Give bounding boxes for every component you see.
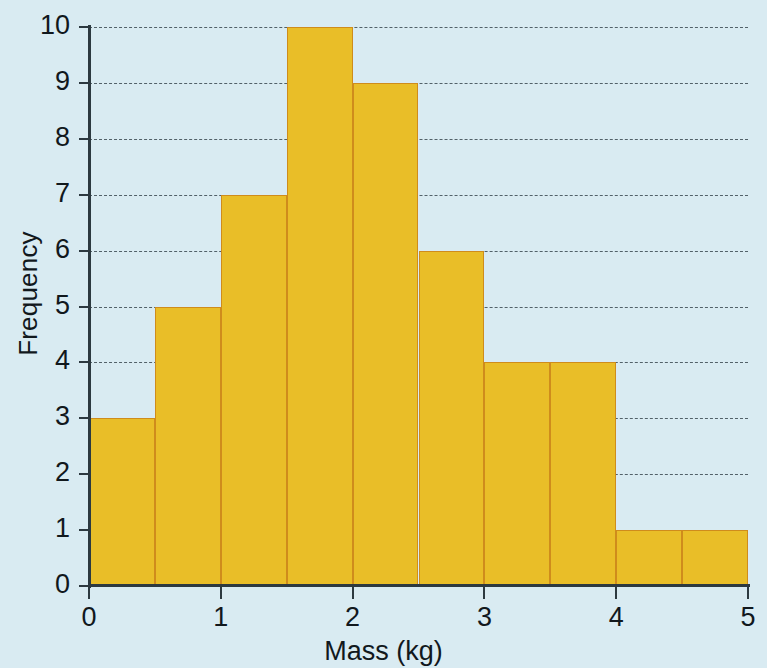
x-tick-5: [747, 586, 749, 599]
x-tick-label-0: 0: [67, 602, 111, 633]
y-tick-6: [79, 250, 91, 252]
bars-layer: [89, 27, 748, 586]
x-axis-line: [88, 584, 750, 587]
y-tick-10: [79, 26, 91, 28]
y-tick-3: [79, 417, 91, 419]
histogram-bar: [221, 195, 287, 586]
y-tick-label-1: 1: [20, 513, 70, 544]
x-tick-1: [220, 586, 222, 599]
y-tick-label-10: 10: [20, 10, 70, 41]
x-tick-label-1: 1: [199, 602, 243, 633]
x-tick-4: [615, 586, 617, 599]
x-tick-label-3: 3: [462, 602, 506, 633]
y-tick-label-9: 9: [20, 66, 70, 97]
histogram-bar: [616, 530, 682, 586]
x-tick-label-4: 4: [594, 602, 638, 633]
x-axis-label: Mass (kg): [0, 636, 767, 667]
histogram-bar: [550, 362, 616, 586]
histogram-bar: [89, 418, 155, 586]
x-tick-label-5: 5: [726, 602, 767, 633]
y-tick-label-2: 2: [20, 457, 70, 488]
histogram-bar: [484, 362, 550, 586]
histogram-bar: [682, 530, 748, 586]
x-tick-2: [352, 586, 354, 599]
y-tick-8: [79, 138, 91, 140]
y-tick-label-8: 8: [20, 122, 70, 153]
histogram-bar: [287, 27, 353, 586]
y-tick-5: [79, 306, 91, 308]
y-tick-1: [79, 529, 91, 531]
histogram-bar: [419, 251, 485, 586]
y-tick-2: [79, 473, 91, 475]
x-tick-label-2: 2: [331, 602, 375, 633]
y-tick-4: [79, 361, 91, 363]
y-tick-9: [79, 82, 91, 84]
histogram-chart: 012345678910 012345 Frequency Mass (kg): [0, 0, 767, 668]
x-tick-0: [88, 586, 90, 599]
y-tick-label-0: 0: [20, 569, 70, 600]
y-axis-label: Frequency: [13, 174, 44, 414]
histogram-bar: [353, 83, 419, 586]
x-tick-3: [483, 586, 485, 599]
y-tick-7: [79, 194, 91, 196]
histogram-bar: [155, 307, 221, 587]
